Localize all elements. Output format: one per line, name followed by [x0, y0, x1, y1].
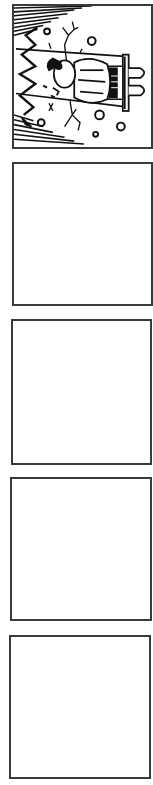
comic-panel-4: empty — [10, 477, 152, 621]
comic-panel-3: empty — [11, 319, 152, 465]
girl-figure — [48, 59, 76, 98]
hatching-top-left — [14, 6, 92, 35]
zigzag-shock-line — [20, 27, 37, 114]
dress — [74, 59, 110, 103]
comic-panel-1: Rotated ink drawing of a girl in a dress… — [12, 4, 153, 149]
feet — [129, 68, 145, 95]
comic-panel-2: empty — [12, 162, 153, 306]
girl-on-bench-illustration — [14, 6, 151, 147]
comic-panel-5: empty — [9, 635, 151, 779]
hatching-bottom-left — [14, 115, 84, 144]
